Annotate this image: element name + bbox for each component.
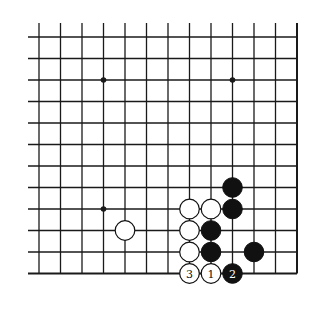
- move-number-label: 3: [186, 268, 193, 281]
- white-stone: [180, 242, 200, 262]
- board-grid: [28, 23, 297, 274]
- black-stone-disc: [244, 242, 264, 262]
- white-stone: [201, 199, 221, 219]
- white-stone: [180, 221, 200, 241]
- star-point: [101, 77, 107, 83]
- black-stone: [201, 221, 221, 241]
- black-stone: [223, 199, 243, 219]
- move-number-label: 1: [208, 268, 215, 281]
- white-stone-disc: [180, 199, 200, 219]
- white-stone-move-1: 1: [201, 264, 221, 284]
- black-stone-disc: [201, 242, 221, 262]
- star-point: [101, 206, 107, 212]
- star-point: [230, 77, 236, 83]
- black-stone: [201, 242, 221, 262]
- black-stone-disc: [223, 199, 243, 219]
- white-stone: [115, 221, 135, 241]
- white-stone-move-3: 3: [180, 264, 200, 284]
- white-stone-disc: [201, 199, 221, 219]
- black-stone: [244, 242, 264, 262]
- white-stone-disc: [180, 221, 200, 241]
- white-stone-disc: [180, 242, 200, 262]
- white-stone: [180, 199, 200, 219]
- white-stone-disc: [115, 221, 135, 241]
- black-stone: [223, 178, 243, 198]
- go-board: 312: [0, 0, 314, 318]
- black-stone-move-2: 2: [223, 264, 243, 284]
- black-stone-disc: [223, 178, 243, 198]
- move-number-label: 2: [229, 268, 236, 281]
- black-stone-disc: [201, 221, 221, 241]
